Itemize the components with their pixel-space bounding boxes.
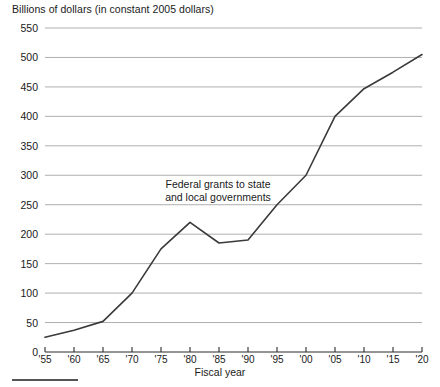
- x-axis-tick-label: '10: [357, 354, 370, 365]
- y-axis-tick-label: 250: [4, 199, 38, 211]
- x-axis-tick-label: '90: [241, 354, 254, 365]
- y-axis-tick-label: 50: [4, 317, 38, 329]
- y-axis-tick-label: 350: [4, 140, 38, 152]
- x-axis-tick-label: '70: [125, 354, 138, 365]
- y-axis-tick-label: 150: [4, 258, 38, 270]
- x-axis-tick-label: '00: [299, 354, 312, 365]
- x-axis-tick-label: '05: [328, 354, 341, 365]
- x-axis-tick-label: '75: [154, 354, 167, 365]
- x-axis-title: Fiscal year: [0, 366, 440, 378]
- y-axis-tick-label: 100: [4, 287, 38, 299]
- y-axis-tick-label: 400: [4, 110, 38, 122]
- y-axis-tick-label: 500: [4, 51, 38, 63]
- x-axis-tick-label: '85: [212, 354, 225, 365]
- chart-figure: Billions of dollars (in constant 2005 do…: [0, 0, 440, 387]
- annotation-line-2: and local governments: [148, 191, 288, 204]
- x-axis-tick-label: '20: [415, 354, 428, 365]
- x-axis-tick-label: '15: [386, 354, 399, 365]
- annotation-line-1: Federal grants to state: [148, 178, 288, 191]
- footer-rule: [12, 379, 78, 381]
- series-annotation: Federal grants to state and local govern…: [148, 178, 288, 204]
- gridlines: [45, 28, 422, 323]
- y-axis-tick-label: 450: [4, 81, 38, 93]
- x-axis-tick-label: '55: [38, 354, 51, 365]
- y-axis-tick-label: 200: [4, 228, 38, 240]
- y-axis-tick-label: 550: [4, 22, 38, 34]
- x-axis-tick-label: '60: [67, 354, 80, 365]
- y-axis-tick-label: 0: [4, 346, 38, 358]
- x-axis-tick-label: '95: [270, 354, 283, 365]
- y-axis-tick-label: 300: [4, 169, 38, 181]
- x-axis-ticks: [45, 347, 422, 352]
- x-axis-tick-label: '80: [183, 354, 196, 365]
- x-axis-tick-label: '65: [96, 354, 109, 365]
